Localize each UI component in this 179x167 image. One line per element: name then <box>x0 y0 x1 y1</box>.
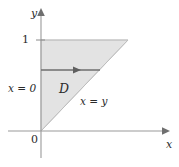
y-axis-label: y <box>31 8 37 19</box>
y-tick-label-one: 1 <box>22 34 29 45</box>
diagonal-boundary-label: x = y <box>80 96 107 107</box>
left-boundary-label: x = 0 <box>8 83 36 94</box>
y-axis-arrowhead-icon <box>37 8 45 16</box>
region-diagram-figure: y x 1 0 x = 0 D x = y <box>0 0 179 167</box>
region-label-d: D <box>59 83 69 96</box>
x-axis-label: x <box>166 139 172 150</box>
origin-label: 0 <box>31 134 38 145</box>
x-axis-arrowhead-icon <box>162 127 170 135</box>
